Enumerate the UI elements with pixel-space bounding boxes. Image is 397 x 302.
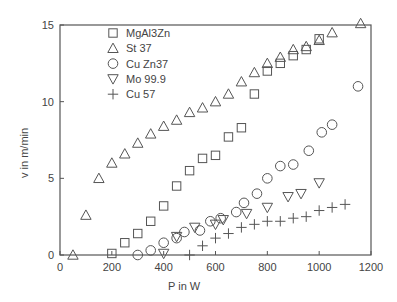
circle-marker-icon (146, 246, 156, 256)
triangle-up-marker-icon (236, 77, 246, 86)
triangle-up-marker-icon (301, 41, 311, 50)
triangle-up-marker-icon (197, 103, 207, 112)
circle-marker-icon (216, 213, 226, 223)
square-marker-icon (172, 182, 180, 190)
triangle-up-marker-icon (223, 89, 233, 98)
plus-marker-icon (340, 199, 350, 209)
square-marker-icon (237, 124, 245, 132)
x-tick-label: 400 (154, 261, 172, 273)
axis-ticks: 020040060080010001200051015 (42, 19, 383, 273)
triangle-down-legend-icon (108, 75, 118, 84)
square-marker-icon (276, 59, 284, 67)
triangle-up-marker-icon (275, 52, 285, 61)
circle-marker-icon (263, 174, 273, 184)
y-tick-label: 5 (48, 172, 54, 184)
square-legend-icon (109, 29, 117, 37)
square-marker-icon (250, 90, 258, 98)
plus-marker-icon (288, 213, 298, 223)
plus-marker-icon (262, 216, 272, 226)
triangle-up-marker-icon (184, 107, 194, 116)
series-cu-zn37 (133, 82, 363, 260)
legend-label: MgAl3Zn (126, 27, 170, 39)
square-marker-icon (198, 154, 206, 162)
triangle-up-marker-icon (81, 210, 91, 219)
square-marker-icon (289, 51, 297, 59)
triangle-up-marker-icon (327, 27, 337, 36)
triangle-up-marker-icon (262, 58, 272, 67)
plus-marker-icon (184, 250, 194, 260)
data-series (68, 18, 366, 260)
legend-label: Mo 99.9 (126, 73, 166, 85)
square-marker-icon (185, 166, 193, 174)
plus-marker-icon (223, 228, 233, 238)
y-tick-label: 10 (42, 96, 54, 108)
x-tick-label: 0 (57, 261, 63, 273)
triangle-up-marker-icon (120, 149, 130, 158)
circle-marker-icon (288, 160, 298, 170)
circle-marker-icon (317, 128, 327, 138)
triangle-down-marker-icon (314, 179, 324, 188)
triangle-down-marker-icon (262, 203, 272, 212)
circle-marker-icon (159, 238, 169, 248)
triangle-up-marker-icon (158, 121, 168, 130)
chart-canvas: 020040060080010001200051015 MgAl3ZnSt 37… (0, 0, 397, 302)
square-marker-icon (211, 151, 219, 159)
plus-marker-icon (249, 219, 259, 229)
circle-marker-icon (206, 216, 216, 226)
circle-marker-icon (275, 161, 285, 171)
y-tick-label: 15 (42, 19, 54, 31)
legend-item: Cu Zn37 (108, 58, 168, 70)
triangle-up-marker-icon (210, 96, 220, 105)
series-mo-99.9 (158, 179, 324, 259)
plus-marker-icon (197, 241, 207, 251)
plus-marker-icon (301, 211, 311, 221)
square-marker-icon (263, 67, 271, 75)
legend-item: St 37 (108, 42, 152, 54)
triangle-up-marker-icon (146, 129, 156, 138)
x-tick-label: 600 (206, 261, 224, 273)
y-axis-label: v in m/min (18, 128, 30, 178)
legend-label: Cu 57 (126, 88, 155, 100)
legend-item: Mo 99.9 (108, 73, 166, 85)
triangle-up-marker-icon (288, 44, 298, 53)
square-marker-icon (134, 229, 142, 237)
triangle-up-marker-icon (171, 115, 181, 124)
circle-marker-icon (195, 226, 205, 236)
x-tick-label: 800 (258, 261, 276, 273)
square-marker-icon (147, 217, 155, 225)
triangle-up-marker-icon (133, 138, 143, 147)
plus-marker-icon (210, 233, 220, 243)
x-tick-label: 200 (103, 261, 121, 273)
plus-marker-icon (314, 205, 324, 215)
triangle-up-legend-icon (108, 43, 118, 52)
triangle-down-marker-icon (296, 189, 306, 198)
triangle-up-marker-icon (94, 173, 104, 182)
legend-item: MgAl3Zn (109, 27, 170, 39)
triangle-down-marker-icon (283, 193, 293, 202)
legend-label: Cu Zn37 (126, 58, 168, 70)
square-marker-icon (121, 239, 129, 247)
legend: MgAl3ZnSt 37Cu Zn37Mo 99.9Cu 57 (108, 27, 170, 100)
circle-marker-icon (239, 198, 249, 208)
x-tick-label: 1000 (307, 261, 331, 273)
triangle-up-marker-icon (355, 18, 365, 27)
series-st-37 (68, 18, 366, 259)
circle-marker-icon (231, 207, 241, 217)
triangle-up-marker-icon (249, 67, 259, 76)
square-marker-icon (224, 133, 232, 141)
triangle-down-marker-icon (241, 209, 251, 218)
plus-marker-icon (275, 216, 285, 226)
square-marker-icon (159, 202, 167, 210)
x-axis-label: P in W (168, 280, 201, 292)
plus-marker-icon (327, 202, 337, 212)
circle-marker-icon (304, 146, 314, 156)
plus-legend-icon (108, 89, 118, 99)
circle-marker-icon (252, 189, 262, 199)
circle-marker-icon (353, 82, 363, 92)
y-tick-label: 0 (48, 249, 54, 261)
legend-item: Cu 57 (108, 88, 156, 100)
x-tick-label: 1200 (359, 261, 383, 273)
legend-label: St 37 (126, 42, 152, 54)
circle-marker-icon (327, 120, 337, 130)
triangle-up-marker-icon (107, 158, 117, 167)
